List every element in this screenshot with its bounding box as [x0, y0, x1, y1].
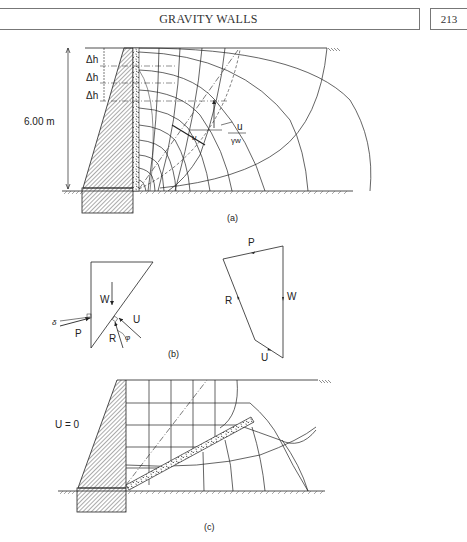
soil-wedge [91, 262, 153, 348]
polygon-reaction-label: R [225, 295, 232, 306]
caption-a: (a) [227, 213, 238, 223]
polygon-w-arrowhead [282, 297, 284, 301]
polygon-uplift-label: U [261, 352, 268, 363]
wedge-weight-label: W [100, 294, 110, 305]
figure: 6.00 m Δh Δh Δh [0, 0, 467, 542]
angle-label: u [192, 133, 197, 142]
u-leader-line [221, 122, 232, 125]
vertical-drain [133, 48, 139, 191]
ground-hatch-mark-c [319, 380, 331, 383]
inclined-drain [126, 417, 254, 490]
phi-label: φ [125, 333, 130, 342]
delta-h-dimensions: Δh Δh Δh [86, 48, 228, 101]
gravity-wall-c [78, 380, 126, 488]
gravity-wall [83, 48, 133, 188]
delta-h-label-1: Δh [86, 54, 98, 65]
polygon-u-arrowhead [268, 348, 272, 351]
delta-h-label-3: Δh [86, 90, 98, 101]
delta-label: δ [52, 318, 57, 327]
wedge-reaction-label: R [109, 333, 116, 344]
ground-hatch-mark [328, 48, 340, 51]
panel-b: W U R φ δ P (b) P W R U [52, 237, 297, 363]
panel-c: U = 0 (c) [55, 380, 331, 532]
wall-footing-c [77, 488, 126, 512]
wedge-uplift-label: U [133, 314, 140, 325]
polygon-weight-label: W [287, 291, 297, 302]
pore-pressure-label: U = 0 [55, 419, 80, 430]
normal-vector [172, 125, 205, 145]
polygon-thrust-label: P [248, 237, 255, 248]
delta-h-label-2: Δh [86, 72, 98, 83]
wall-footing [82, 188, 133, 213]
caption-c: (c) [204, 522, 215, 532]
wedge-thrust-label: P [75, 328, 82, 339]
panel-a: 6.00 m Δh Δh Δh [24, 48, 371, 223]
pressure-denominator: γw [231, 136, 241, 145]
height-label: 6.00 m [24, 116, 55, 127]
pressure-numerator: u [237, 121, 243, 132]
caption-b: (b) [168, 349, 179, 359]
flow-net [139, 48, 371, 191]
